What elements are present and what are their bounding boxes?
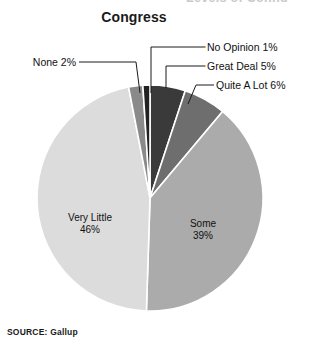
slice-label-very-little: Very Little 46%: [47, 212, 133, 236]
callout-label-quite-a-lot: Quite A Lot 6%: [216, 79, 285, 91]
callout-label-none: None 2%: [0, 56, 76, 68]
pie-chart-graphic: [0, 0, 334, 346]
callout-label-no-opinion: No Opinion 1%: [207, 41, 278, 53]
callout-label-great-deal: Great Deal 5%: [207, 60, 276, 72]
source-note: SOURCE: Gallup: [7, 327, 78, 337]
pie-slice-group: [37, 85, 263, 311]
slice-label-some-name: Some: [190, 218, 216, 229]
slice-label-very-little-percent: 46%: [47, 224, 133, 236]
slice-label-some-percent: 39%: [168, 230, 238, 242]
slice-label-very-little-name: Very Little: [68, 212, 112, 223]
chart-page: Levels of Confid Congress No Opinion 1% …: [0, 0, 334, 346]
pie-slice-very-little: [37, 87, 150, 311]
slice-label-some: Some 39%: [168, 218, 238, 242]
